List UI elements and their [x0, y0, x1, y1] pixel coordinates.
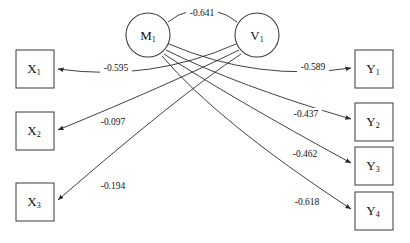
node-x3-sub: 3	[37, 201, 41, 210]
node-y4[interactable]: Y4	[355, 192, 393, 230]
node-y3-sub: 3	[376, 165, 380, 174]
node-y1[interactable]: Y1	[355, 50, 393, 88]
node-x1-sub: 1	[37, 68, 41, 77]
edge-group-left	[58, 44, 241, 200]
node-y2-sub: 2	[376, 121, 380, 130]
edge-label-m1-y1-wrap: -0.589	[297, 61, 329, 74]
node-v1[interactable]: V1	[235, 13, 279, 57]
node-m1[interactable]: M1	[126, 13, 170, 57]
path-diagram-canvas: X1 X2 X3 Y1	[0, 0, 410, 243]
edge-path-v1-x3	[58, 54, 241, 200]
edge-label-v1-x1-wrap: -0.595	[100, 62, 132, 75]
node-y1-sub: 1	[376, 68, 380, 77]
edge-label-m1-v1-wrap: -0.641	[186, 7, 218, 20]
edge-label-v1-x3-wrap: -0.194	[97, 180, 129, 193]
edge-label-m1-v1: -0.641	[190, 8, 215, 18]
node-x2-sub: 2	[37, 130, 41, 139]
node-group-left-observed: X1 X2 X3	[16, 50, 54, 221]
node-m1-sub: 1	[152, 35, 156, 44]
edge-label-m1-y2-wrap: -0.437	[290, 108, 322, 121]
edge-label-v1-x1: -0.595	[104, 63, 129, 73]
edge-label-m1-y3-wrap: -0.462	[289, 148, 321, 161]
edge-label-v1-x2-wrap: -0.097	[97, 116, 129, 129]
node-y2[interactable]: Y2	[355, 103, 393, 141]
edge-label-m1-y4: -0.618	[295, 197, 320, 207]
edge-label-m1-y2: -0.437	[294, 109, 319, 119]
edge-label-v1-x3: -0.194	[101, 181, 126, 191]
node-y3[interactable]: Y3	[355, 147, 393, 185]
node-group-right-observed: Y1 Y2 Y3 Y4	[355, 50, 393, 230]
edge-path-v1-x2	[58, 50, 239, 130]
node-m1-base: M	[140, 28, 152, 43]
edge-label-m1-y3: -0.462	[293, 149, 318, 159]
node-x1[interactable]: X1	[16, 50, 54, 88]
path-diagram-container: X1 X2 X3 Y1	[0, 0, 410, 243]
node-x3[interactable]: X3	[16, 183, 54, 221]
node-v1-sub: 1	[260, 35, 264, 44]
node-x2[interactable]: X2	[16, 112, 54, 150]
edge-path-m1-y2	[166, 50, 351, 119]
node-y4-sub: 4	[376, 210, 380, 219]
edge-path-m1-y4	[162, 56, 351, 209]
edge-label-m1-y1: -0.589	[301, 62, 326, 72]
edge-label-v1-x2: -0.097	[101, 117, 126, 127]
edge-label-m1-y4-wrap: -0.618	[291, 196, 323, 209]
